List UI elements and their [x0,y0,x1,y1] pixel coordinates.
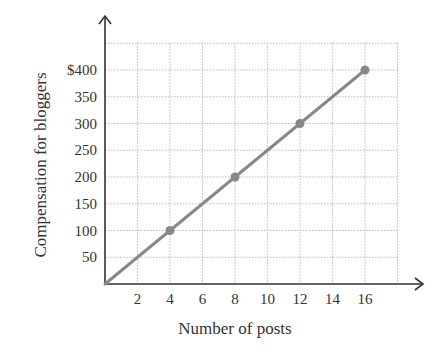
y-axis-title: Compensation for bloggers [31,72,50,257]
y-tick-label: $400 [67,62,97,78]
data-point-marker [296,119,305,128]
data-point-marker [231,173,240,182]
x-axis-ticks: 246810121416 [134,291,373,307]
x-axis-title: Number of posts [178,319,291,338]
x-tick-label: 2 [134,291,142,307]
x-tick-label: 8 [231,291,239,307]
y-tick-label: 150 [75,196,98,212]
y-axis-ticks: 50100150200250300350$400 [67,62,97,265]
x-tick-label: 6 [199,291,207,307]
x-tick-label: 10 [260,291,275,307]
y-tick-label: 200 [75,169,98,185]
line-chart: 246810121416 50100150200250300350$400 Nu… [0,0,439,359]
x-tick-label: 14 [325,291,341,307]
y-tick-label: 250 [75,142,98,158]
data-point-marker [361,66,370,75]
data-series [105,66,370,285]
y-tick-label: 50 [82,249,97,265]
y-tick-label: 100 [75,223,98,239]
data-point-marker [166,226,175,235]
y-tick-label: 300 [75,116,98,132]
x-tick-label: 4 [166,291,174,307]
y-tick-label: 350 [75,89,98,105]
x-tick-label: 12 [293,291,308,307]
x-tick-label: 16 [358,291,374,307]
